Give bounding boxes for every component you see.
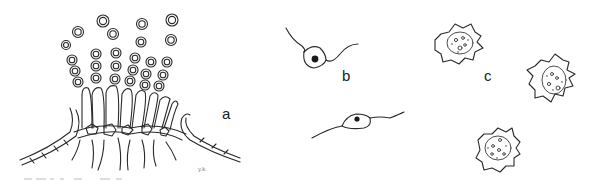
artist-signature: y.k. [198, 166, 207, 172]
panel-c-cells [435, 24, 575, 172]
figure: a b c y.k. [0, 0, 601, 181]
panel-a-base [20, 108, 240, 170]
illustration-drawing [0, 0, 601, 181]
panel-label-c: c [484, 68, 492, 83]
panel-a-club-cells [82, 86, 178, 130]
panel-a-spores [62, 14, 179, 91]
panel-label-b: b [342, 68, 350, 83]
panel-label-a: a [222, 106, 230, 121]
